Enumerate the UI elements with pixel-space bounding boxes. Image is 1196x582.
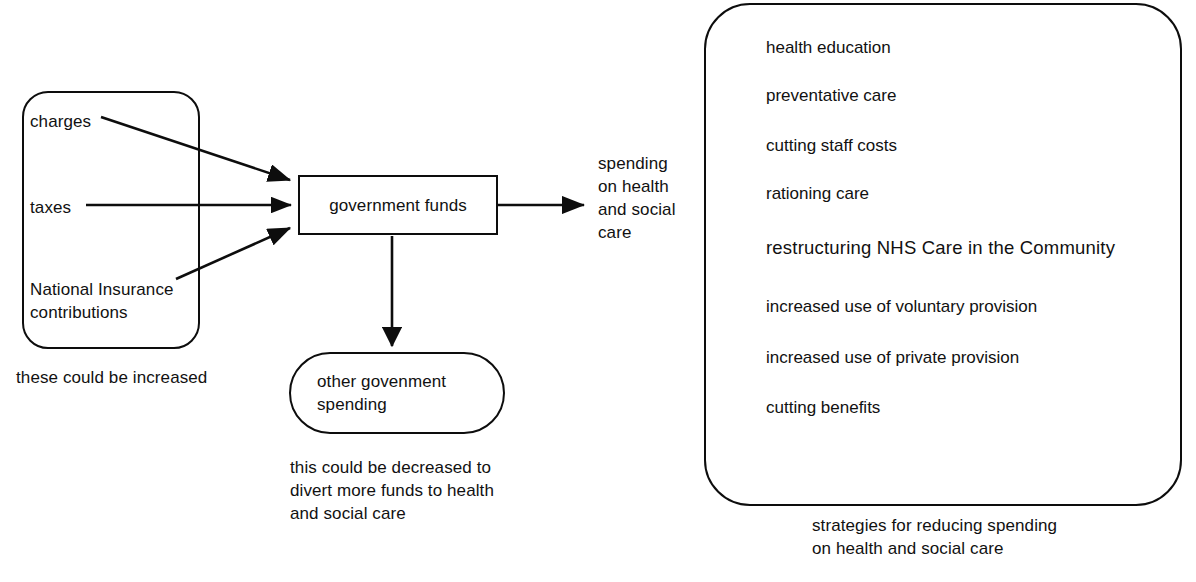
strategy-item: health education [766,37,891,59]
strategy-item: increased use of private provision [766,347,1019,369]
strategy-item: cutting benefits [766,397,880,419]
label-taxes: taxes [30,196,71,219]
label-government-funds: government funds [298,175,498,235]
strategy-item: preventative care [766,85,896,107]
strategy-item: restructuring NHS Care in the Community [766,237,1115,259]
strategy-item: cutting staff costs [766,135,897,157]
label-national-insurance-contributions: National Insurance contributions [30,278,174,324]
label-spending-on-health-and-social-care: spending on health and social care [598,152,676,244]
label-other-government-spending: other govenment spending [289,352,505,434]
label-charges: charges [30,110,91,133]
strategy-item: increased use of voluntary provision [766,296,1037,318]
caption-other-spending-could-be-decreased: this could be decreased to divert more f… [290,456,494,525]
caption-inputs-could-be-increased: these could be increased [16,366,207,389]
diagram-canvas: charges taxes National Insurance contrib… [0,0,1196,582]
strategy-item: rationing care [766,183,869,205]
caption-strategies-for-reducing-spending: strategies for reducing spending on heal… [812,514,1057,560]
